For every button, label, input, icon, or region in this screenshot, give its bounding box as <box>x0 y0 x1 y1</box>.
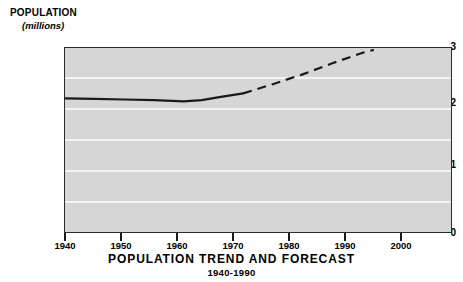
x-tick-label-1940: 1940 <box>54 240 75 251</box>
x-tick-label-1970: 1970 <box>222 240 243 251</box>
y-axis-title-block: POPULATION (millions) <box>10 8 77 30</box>
x-tick-label-1950: 1950 <box>110 240 131 251</box>
chart-subtitle: 1940-1990 <box>0 267 463 278</box>
x-tick-label-1960: 1960 <box>166 240 187 251</box>
data-lines <box>65 48 451 232</box>
series-forecast-line <box>243 50 374 94</box>
x-tick-label-1980: 1980 <box>278 240 299 251</box>
x-tick-label-2000: 2000 <box>390 240 411 251</box>
chart-title: POPULATION TREND AND FORECAST <box>0 252 463 266</box>
y-axis-title: POPULATION <box>10 8 77 19</box>
y-axis-units: (millions) <box>22 21 77 31</box>
population-chart: POPULATION (millions) 3 2 1 0 1940 1950 … <box>0 0 463 282</box>
x-tick-label-1990: 1990 <box>334 240 355 251</box>
series-historical-line <box>65 93 243 101</box>
plot-area <box>64 47 452 233</box>
